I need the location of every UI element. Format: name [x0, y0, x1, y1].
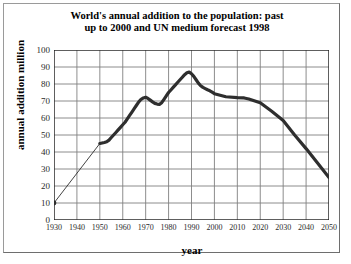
- y-tick-label: 30: [24, 165, 50, 174]
- line-chart-svg: [54, 50, 329, 220]
- chart-title-line-2: up to 2000 and UN medium forecast 1998: [32, 22, 322, 34]
- data-point-marker: [54, 201, 56, 206]
- y-axis-tick-labels: 0102030405060708090100: [24, 46, 50, 226]
- y-tick-label: 40: [24, 148, 50, 157]
- x-axis-label: year: [52, 244, 332, 256]
- chart-frame: World's annual addition to the populatio…: [3, 3, 340, 253]
- y-tick-label: 60: [24, 114, 50, 123]
- y-tick-label: 70: [24, 97, 50, 106]
- x-tick-label: 2050: [314, 223, 344, 232]
- y-tick-label: 100: [24, 46, 50, 55]
- y-tick-label: 80: [24, 80, 50, 89]
- y-tick-label: 50: [24, 131, 50, 140]
- x-axis-tick-labels: 1930194019501960197019801990200020102020…: [28, 223, 348, 237]
- chart-title-line-1: World's annual addition to the populatio…: [32, 10, 322, 22]
- y-tick-label: 10: [24, 199, 50, 208]
- chart-title: World's annual addition to the populatio…: [32, 10, 322, 34]
- plot-area: [54, 50, 329, 220]
- y-tick-label: 90: [24, 63, 50, 72]
- y-tick-label: 20: [24, 182, 50, 191]
